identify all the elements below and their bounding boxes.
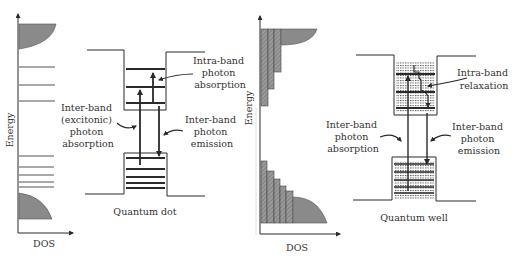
qw-energy-label: Energy	[243, 90, 254, 125]
qd-dos-panel: Energy DOS	[4, 14, 73, 249]
qd-energy-label: Energy	[4, 112, 15, 147]
qd-conduction-continuum	[19, 24, 56, 49]
qw-interband-absorption-label: Inter-band photon absorption	[326, 119, 380, 154]
qd-interband-emission-label: Inter-band photon emission	[185, 114, 239, 149]
qw-dos-step	[268, 29, 274, 89]
qw-caption: Quantum well	[380, 212, 447, 223]
qw-dos-step	[274, 29, 281, 72]
qd-intraband-label: Intra-band photon absorption	[193, 55, 247, 90]
qd-caption: Quantum dot	[113, 206, 176, 217]
qd-absorption-pointer-arrow	[117, 123, 136, 128]
qw-dos-step	[267, 171, 274, 223]
qw-dos-panel: Energy DOS	[243, 16, 340, 253]
qw-dos-step	[261, 29, 268, 106]
qw-dos-step	[280, 186, 286, 223]
qd-emission-pointer-arrow	[164, 130, 183, 135]
qd-valence-continuum	[19, 193, 52, 219]
qd-valence-band-edge	[85, 153, 205, 196]
qw-dos-step	[274, 179, 280, 223]
qw-conduction-continuum	[281, 29, 317, 45]
qd-conduction-band-edge	[87, 50, 205, 110]
qd-intraband-pointer-arrow	[159, 74, 193, 80]
qw-valence-continuum	[293, 197, 327, 223]
qw-emission-pointer-arrow	[431, 135, 451, 141]
qw-dos-step	[261, 161, 267, 223]
diagram-canvas: Energy DOS Intra-band photon absorption …	[0, 0, 516, 261]
qw-dos-step	[286, 191, 293, 223]
qw-dos-label: DOS	[286, 242, 308, 253]
qw-absorption-pointer-arrow	[380, 135, 401, 141]
qd-band-diagram: Intra-band photon absorption Inter-band …	[61, 50, 247, 217]
qw-interband-emission-label: Inter-band photon emission	[452, 121, 506, 156]
qd-dos-label: DOS	[33, 238, 55, 249]
qw-band-diagram: Intra-band relaxation Inter-band photon …	[326, 55, 511, 223]
qw-electron-subbands	[396, 62, 435, 112]
qd-interband-absorption-label: Inter-band (excitonic) photon absorption	[61, 102, 115, 149]
